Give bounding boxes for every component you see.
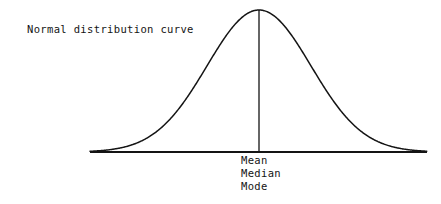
normal-distribution-figure: Normal distribution curve Mean Median Mo…	[0, 0, 441, 204]
chart-title: Normal distribution curve	[27, 23, 194, 35]
label-median: Median	[241, 167, 281, 180]
center-tendency-labels: Mean Median Mode	[241, 154, 281, 193]
label-mean: Mean	[241, 154, 281, 167]
label-mode: Mode	[241, 180, 281, 193]
